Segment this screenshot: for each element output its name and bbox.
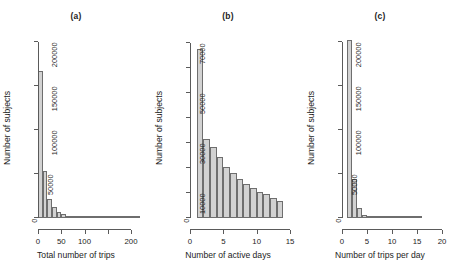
x-axis-tick bbox=[190, 230, 191, 234]
histogram-bar bbox=[217, 157, 224, 218]
panel-a-title: (a) bbox=[0, 11, 152, 21]
panel-a-plot-area: 050000100000150000200000050100200 bbox=[38, 38, 138, 218]
histogram-bar bbox=[243, 184, 250, 218]
histogram-bar bbox=[230, 173, 237, 218]
x-axis-tick bbox=[223, 230, 224, 234]
x-axis-tick-label: 0 bbox=[340, 237, 344, 246]
y-axis-tick-label: 150000 bbox=[354, 87, 363, 112]
histogram-bar bbox=[250, 188, 257, 218]
y-axis-tick-label: 0 bbox=[182, 219, 191, 223]
y-axis-line bbox=[342, 42, 343, 218]
y-axis-tick-label: 100000 bbox=[50, 131, 59, 156]
y-axis-tick bbox=[34, 85, 38, 86]
y-axis-tick-label: 200000 bbox=[354, 43, 363, 68]
histogram-bar bbox=[270, 198, 277, 219]
y-axis-tick bbox=[338, 41, 342, 42]
panel-c-xlabel: Number of trips per day bbox=[304, 250, 456, 260]
y-axis-tick bbox=[34, 129, 38, 130]
histogram-bar bbox=[210, 147, 217, 218]
x-axis-tick bbox=[61, 230, 62, 234]
x-axis-tick bbox=[131, 230, 132, 234]
y-axis-tick bbox=[338, 173, 342, 174]
panel-c-title: (c) bbox=[304, 11, 456, 21]
y-axis-tick bbox=[338, 129, 342, 130]
y-axis-tick-label: 30000 bbox=[198, 144, 207, 165]
histogram-bar bbox=[417, 216, 422, 218]
histogram-bar bbox=[237, 179, 244, 218]
y-axis-tick-label: 200000 bbox=[50, 43, 59, 68]
y-axis-tick-label: 50000 bbox=[198, 94, 207, 115]
y-axis-tick bbox=[186, 192, 190, 193]
x-axis-tick bbox=[108, 230, 109, 234]
x-axis-tick-label: 10 bbox=[388, 237, 397, 246]
x-axis-tick-label: 200 bbox=[125, 237, 138, 246]
histogram-bar bbox=[263, 194, 270, 218]
histogram-bar bbox=[277, 201, 284, 218]
y-axis-tick bbox=[186, 42, 190, 43]
x-axis-tick-label: 0 bbox=[188, 237, 192, 246]
x-axis-tick bbox=[342, 230, 343, 234]
histogram-figure: (a) Number of subjects 05000010000015000… bbox=[0, 0, 456, 272]
x-axis-tick-label: 10 bbox=[252, 237, 261, 246]
y-axis-tick bbox=[186, 167, 190, 168]
x-axis-tick bbox=[417, 230, 418, 234]
panel-b-ylabel: Number of subjects bbox=[154, 91, 164, 165]
x-axis-tick bbox=[442, 230, 443, 234]
histogram-bar bbox=[136, 216, 141, 218]
x-axis-tick bbox=[85, 230, 86, 234]
panel-c-plot-area: 05000010000015000020000005101520 bbox=[342, 38, 442, 218]
y-axis-tick-label: 10000 bbox=[198, 194, 207, 215]
histogram-bar bbox=[257, 192, 264, 218]
x-axis-tick-label: 15 bbox=[286, 237, 295, 246]
x-axis-line bbox=[190, 229, 290, 230]
y-axis-tick bbox=[34, 41, 38, 42]
y-axis-tick bbox=[186, 117, 190, 118]
panel-b: (b) Number of subjects 01000030000500007… bbox=[152, 0, 304, 272]
x-axis-tick-label: 0 bbox=[36, 237, 40, 246]
y-axis-line bbox=[190, 43, 191, 218]
y-axis-tick-label: 0 bbox=[30, 219, 39, 223]
x-axis-tick bbox=[290, 230, 291, 234]
x-axis-tick-label: 20 bbox=[438, 237, 447, 246]
x-axis-tick-label: 50 bbox=[57, 237, 66, 246]
y-axis-tick bbox=[34, 173, 38, 174]
panel-b-xlabel: Number of active days bbox=[152, 250, 304, 260]
panel-a-xlabel: Total number of trips bbox=[0, 250, 152, 260]
x-axis-tick bbox=[257, 230, 258, 234]
panel-b-bars bbox=[190, 38, 290, 218]
y-axis-tick bbox=[186, 67, 190, 68]
x-axis-tick-label: 5 bbox=[365, 237, 369, 246]
y-axis-tick-label: 70000 bbox=[198, 44, 207, 65]
y-axis-tick-label: 100000 bbox=[354, 131, 363, 156]
y-axis-tick-label: 50000 bbox=[46, 175, 55, 196]
x-axis-tick bbox=[392, 230, 393, 234]
panel-b-plot-area: 010000300005000070000051015 bbox=[190, 38, 290, 218]
panel-a-ylabel: Number of subjects bbox=[2, 91, 12, 165]
x-axis-tick-label: 100 bbox=[78, 237, 91, 246]
panel-a: (a) Number of subjects 05000010000015000… bbox=[0, 0, 152, 272]
y-axis-tick-label: 0 bbox=[334, 219, 343, 223]
panel-b-title: (b) bbox=[152, 11, 304, 21]
panel-c: (c) Number of subjects 05000010000015000… bbox=[304, 0, 456, 272]
y-axis-tick bbox=[338, 85, 342, 86]
x-axis-tick bbox=[38, 230, 39, 234]
histogram-bar bbox=[223, 167, 230, 218]
y-axis-tick-label: 150000 bbox=[50, 87, 59, 112]
y-axis-tick bbox=[186, 142, 190, 143]
y-axis-tick-label: 50000 bbox=[350, 175, 359, 196]
y-axis-tick bbox=[186, 92, 190, 93]
x-axis-tick-label: 15 bbox=[413, 237, 422, 246]
panel-c-ylabel: Number of subjects bbox=[306, 91, 316, 165]
x-axis-tick-label: 5 bbox=[221, 237, 225, 246]
x-axis-tick bbox=[367, 230, 368, 234]
y-axis-line bbox=[38, 42, 39, 218]
